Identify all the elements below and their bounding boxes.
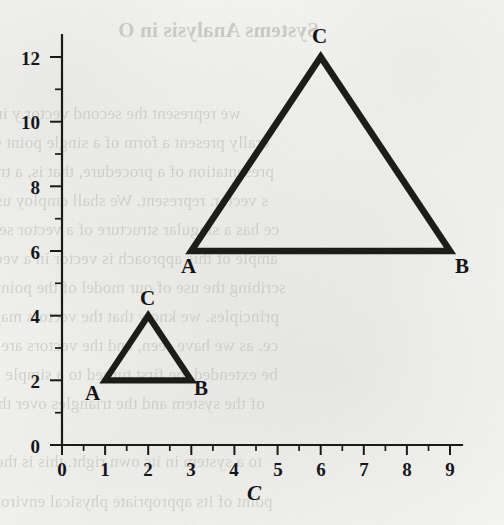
x-tick-label-1: 1 — [91, 460, 119, 479]
x-tick-label-0: 0 — [48, 460, 76, 479]
y-tick-label-4: 4 — [6, 307, 40, 326]
y-tick-label-6: 6 — [6, 243, 40, 262]
y-tick-label-10: 10 — [0, 113, 40, 132]
y-tick-label-0: 0 — [6, 437, 40, 456]
small-triangle-vertex-label-a: A — [85, 383, 100, 404]
x-tick-label-6: 6 — [307, 460, 335, 479]
large-triangle-vertex-label-b: B — [455, 256, 469, 277]
plot-area — [0, 0, 504, 525]
y-tick-label-8: 8 — [6, 178, 40, 197]
large-triangle — [191, 57, 450, 251]
figure-page: Systems Analysis in O we represent the s… — [0, 0, 504, 525]
x-tick-label-4: 4 — [220, 460, 248, 479]
x-tick-label-7: 7 — [350, 460, 378, 479]
x-tick-label-2: 2 — [134, 460, 162, 479]
x-tick-label-5: 5 — [264, 460, 292, 479]
x-tick-label-9: 9 — [436, 460, 464, 479]
x-axis-title: C — [247, 483, 261, 504]
y-axis-major-ticks — [50, 57, 62, 445]
y-tick-label-12: 12 — [0, 49, 40, 68]
y-tick-label-2: 2 — [6, 372, 40, 391]
large-triangle-vertex-label-c: C — [312, 26, 327, 47]
small-triangle-vertex-label-c: C — [140, 288, 155, 309]
small-triangle-vertex-label-b: B — [194, 378, 208, 399]
x-tick-label-3: 3 — [177, 460, 205, 479]
small-triangle — [105, 316, 191, 381]
large-triangle-vertex-label-a: A — [181, 256, 196, 277]
x-tick-label-8: 8 — [393, 460, 421, 479]
